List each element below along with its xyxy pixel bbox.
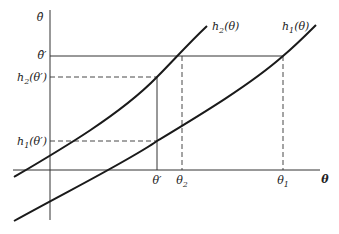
x-axis-label: θ [321, 173, 329, 186]
x-tick-theta-1: θ1 [277, 174, 289, 189]
y-tick-theta-hat-prime: θ̂′ [37, 49, 47, 62]
y-tick-h1-theta-prime: h1(θ′) [17, 135, 47, 150]
x-tick-theta-prime: θ′ [152, 174, 162, 187]
y-tick-h2-theta-prime: h2(θ′) [17, 71, 47, 86]
y-axis-label: θ̂ [37, 11, 44, 24]
diagram-canvas: θ̂ θ h2(θ) h1(θ) θ̂′ h2(θ′) h1(θ′) θ′ θ2… [0, 0, 339, 234]
x-tick-theta-2: θ2 [176, 174, 188, 189]
h2-curve-label: h2(θ) [212, 20, 239, 35]
h1-curve-label: h1(θ) [282, 20, 309, 35]
h1-curve [14, 25, 316, 221]
